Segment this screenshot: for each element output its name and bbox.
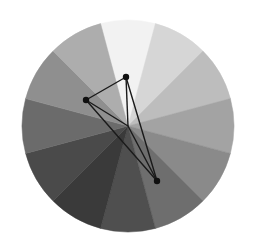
vertex-bottom-marker: [154, 178, 160, 184]
color-wheel-chart: [0, 0, 255, 252]
figure-canvas: [0, 0, 255, 252]
vertex-left-marker: [83, 97, 89, 103]
vertex-top-marker: [123, 74, 129, 80]
